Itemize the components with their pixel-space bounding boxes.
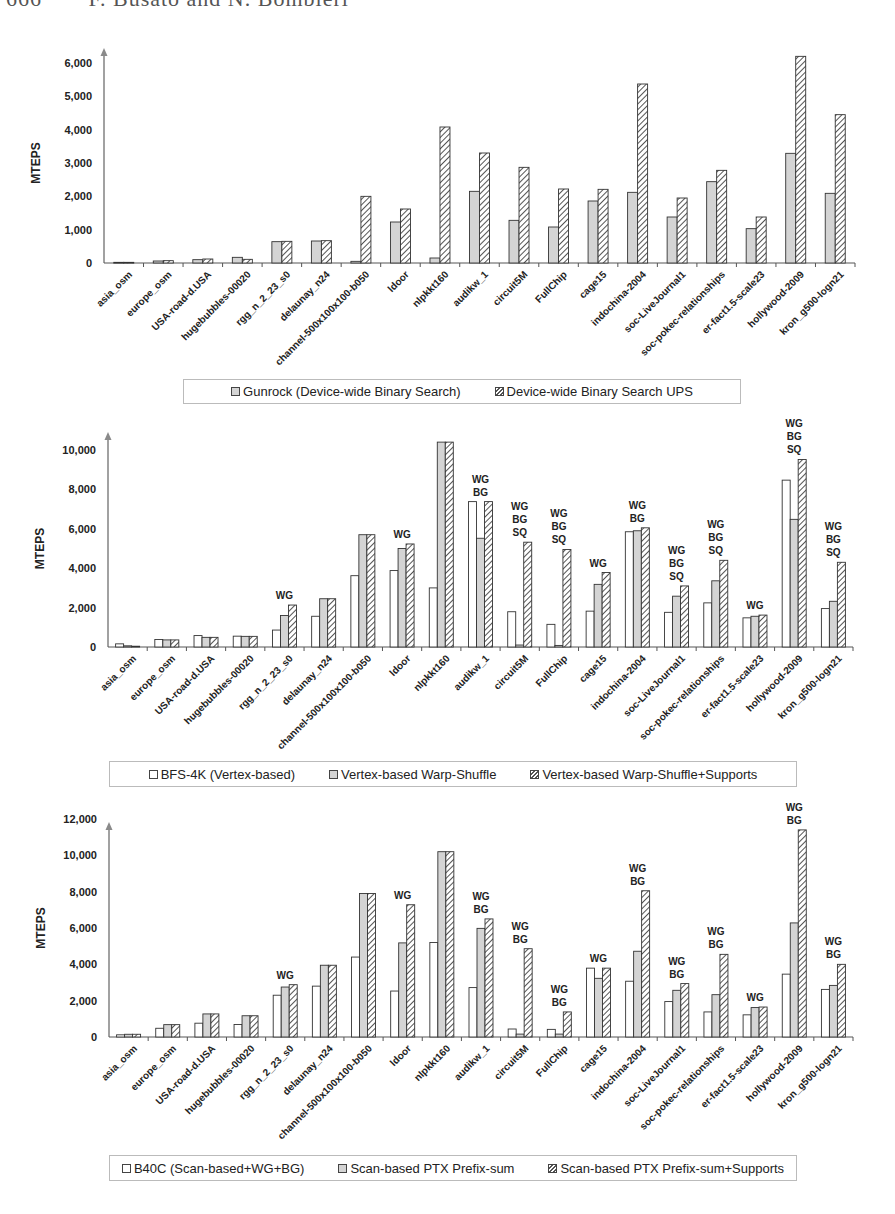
y-tick-label: 0 [91,1031,97,1043]
bar [328,965,336,1037]
bar-annotation: WG [746,992,763,1003]
bar [469,988,477,1037]
bar [798,830,806,1037]
bar [438,852,446,1037]
bar [125,1034,133,1037]
axis-arrow-icon [106,822,113,830]
bar [211,1014,219,1037]
legend-label: Scan-based PTX Prefix-sum+Supports [560,1161,784,1176]
bar-annotation: WG [668,956,685,967]
bar-annotation: WG [551,984,568,995]
bar [133,1034,141,1037]
legend-item-ptx-prefix-sum-supports: Scan-based PTX Prefix-sum+Supports [548,1161,784,1176]
bar [195,1023,203,1037]
y-tick-label: 8,000 [69,886,97,898]
bar [759,1007,767,1037]
bar [602,968,610,1037]
x-tick-label: circuit5M [492,1043,531,1082]
y-tick-label: 6,000 [69,922,97,934]
legend-item-b40c: B40C (Scan-based+WG+BG) [122,1161,305,1176]
bar [743,1015,751,1037]
y-tick-label: 2,000 [69,995,97,1007]
bar [665,1002,673,1037]
bar [516,1034,524,1037]
bar [477,928,485,1037]
bar-annotation: WG [277,970,294,981]
bar [547,1029,555,1037]
bar-annotation: WG [707,926,724,937]
bar [555,1034,563,1037]
bar [320,965,328,1037]
bar [720,954,728,1037]
bar-annotation: WG [512,921,529,932]
bar [821,989,829,1037]
bar-annotation: BG [513,934,528,945]
bar-annotation: WG [786,802,803,813]
bar-annotation: BG [552,997,567,1008]
white-swatch-icon [122,1164,131,1173]
x-tick-label: hugebubbles-00020 [183,1042,257,1116]
x-tick-label: FullChip [534,1043,570,1079]
bar [352,957,360,1037]
bar [234,1024,242,1037]
y-tick-label: 10,000 [63,849,97,861]
bar [399,943,407,1037]
x-tick-label: asia_osm [99,1043,139,1083]
bar-annotation: BG [630,876,645,887]
bar-annotation: WG [394,890,411,901]
bar [837,964,845,1037]
bar [782,974,790,1037]
bar [681,984,689,1037]
y-tick-label: 12,000 [63,813,97,825]
bar [751,1008,759,1037]
bar [289,985,297,1037]
x-tick-label: cage15 [577,1042,609,1074]
bar [312,986,320,1037]
bar [164,1025,172,1037]
bar-annotation: BG [826,949,841,960]
gray-swatch-icon [338,1164,347,1173]
y-axis-title: MTEPS [34,907,48,948]
bar-annotation: BG [787,815,802,826]
bar [391,991,399,1037]
x-tick-label: nlpkkt160 [412,1042,453,1083]
legend-label: B40C (Scan-based+WG+BG) [134,1161,305,1176]
bar [626,981,634,1037]
bar [594,978,602,1037]
hatched-swatch-icon [548,1164,557,1173]
bar [524,949,532,1037]
bar [563,1012,571,1037]
bar-annotation: BG [474,904,489,915]
bar [508,1029,516,1037]
bar [829,985,837,1037]
x-tick-label: ldoor [388,1043,414,1069]
bar [704,1012,712,1037]
bar-annotation: WG [825,936,842,947]
bar [642,891,650,1037]
bar-annotation: WG [590,953,607,964]
bar-annotation: BG [669,969,684,980]
bar-annotation: WG [472,891,489,902]
bar [368,893,376,1037]
bar [172,1025,180,1037]
bar [673,990,681,1037]
bar [242,1016,250,1037]
bar-annotation: WG [629,863,646,874]
bar [156,1028,164,1037]
x-tick-label: audikw_1 [452,1042,492,1082]
bar [407,905,415,1037]
bar [446,852,454,1037]
bar [250,1016,258,1037]
legend-item-ptx-prefix-sum: Scan-based PTX Prefix-sum [338,1161,514,1176]
bar [634,951,642,1037]
bar [360,893,368,1037]
bar [790,923,798,1037]
bar-annotation: BG [708,939,723,950]
bar [430,943,438,1037]
bar [117,1035,125,1037]
bar [586,968,594,1037]
chart-3-plot: 02,0004,0006,0008,00010,00012,000MTEPSas… [0,0,895,1214]
bar [281,987,289,1037]
y-tick-label: 4,000 [69,958,97,970]
bar [485,919,493,1037]
